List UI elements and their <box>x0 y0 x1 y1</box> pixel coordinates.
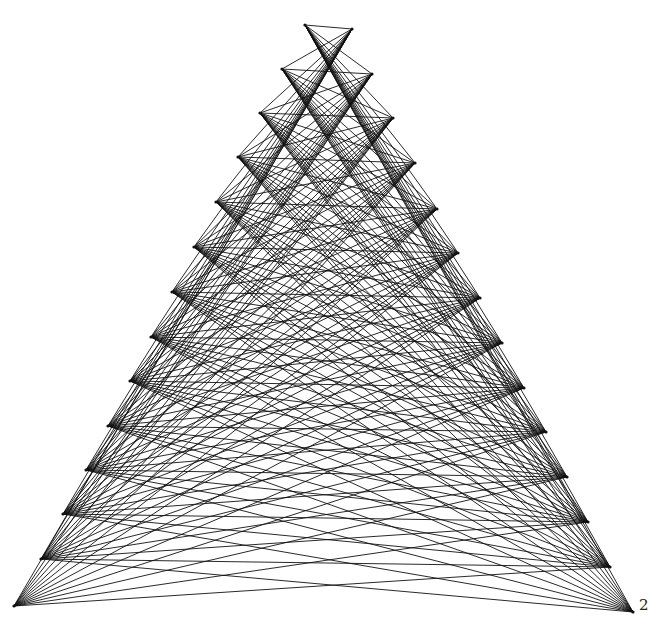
right-vertex <box>478 296 481 299</box>
right-vertex <box>370 72 373 75</box>
left-vertex <box>128 379 131 382</box>
graph-edge <box>305 25 524 388</box>
graph-edge <box>305 25 633 612</box>
right-vertex <box>631 610 634 613</box>
graph-edge <box>14 567 610 606</box>
left-vertex <box>84 468 87 471</box>
right-vertex <box>391 116 394 119</box>
left-vertex <box>61 512 64 515</box>
right-vertex <box>456 251 459 254</box>
graph-edge <box>86 470 588 522</box>
right-vertex <box>544 430 547 433</box>
left-vertex <box>303 23 306 26</box>
right-vertex <box>608 565 611 568</box>
left-vertex <box>258 111 261 114</box>
left-vertex <box>170 290 173 293</box>
graph-edge <box>14 29 352 606</box>
left-vertex <box>149 335 152 338</box>
graph-edges <box>14 25 633 612</box>
right-vertex <box>413 161 416 164</box>
graph-edge <box>305 25 415 163</box>
left-vertex <box>12 604 15 607</box>
left-vertex <box>214 200 217 203</box>
graph-edge <box>305 25 480 298</box>
right-vertex <box>522 386 525 389</box>
graph-edge <box>130 381 524 388</box>
graph-edge <box>41 388 524 559</box>
right-vertex <box>586 520 589 523</box>
graph-edge <box>305 25 352 29</box>
left-vertex <box>106 424 109 427</box>
left-vertex <box>192 245 195 248</box>
left-vertex <box>236 155 239 158</box>
vertex-label-right: 2 <box>639 598 649 613</box>
graph-edge <box>41 559 633 612</box>
bipartite-graph-drawing <box>0 0 649 627</box>
graph-edge <box>63 477 567 514</box>
graph-edge <box>305 25 567 477</box>
graph-edge <box>63 29 352 514</box>
graph-edge <box>130 381 633 612</box>
graph-edge <box>86 470 633 612</box>
graph-edge <box>41 253 458 559</box>
right-vertex <box>350 27 353 30</box>
graph-edge <box>41 118 393 559</box>
graph-edge <box>194 247 633 612</box>
right-vertex <box>435 207 438 210</box>
right-vertex <box>565 475 568 478</box>
left-vertex <box>280 67 283 70</box>
right-vertex <box>500 341 503 344</box>
graph-edge <box>41 298 480 559</box>
graph-edge <box>260 113 393 118</box>
graph-edge <box>151 209 437 337</box>
left-vertex <box>39 557 42 560</box>
graph-edge <box>63 298 480 514</box>
graph-edge <box>63 514 588 522</box>
